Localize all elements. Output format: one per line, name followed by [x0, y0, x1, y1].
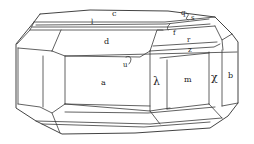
edge-right-bevel: [150, 30, 163, 51]
edge-bot-right-bevel: [209, 104, 222, 118]
face-label-c: c: [112, 10, 116, 18]
edge-left-mid: [18, 48, 52, 51]
face-label-b: b: [228, 72, 233, 80]
face-label-r: r: [187, 37, 190, 44]
face-label-a: a: [101, 79, 106, 87]
crystal-outline: [16, 10, 238, 134]
edge-z-bottom: [150, 44, 220, 51]
face-label-z: z: [188, 47, 192, 54]
crystal-diagram: c l d q s f r z u a λ m χ b: [0, 0, 254, 144]
edge-bot-left: [18, 104, 65, 113]
face-label-l: l: [91, 19, 93, 26]
edge-right-upper: [215, 26, 232, 40]
edge-z-top: [153, 42, 217, 46]
q-mark: [186, 13, 188, 20]
face-label-chi: χ: [211, 72, 218, 83]
face-label-f: f: [173, 30, 176, 37]
edge-chi-top: [222, 40, 223, 50]
face-label-s: s: [191, 15, 195, 22]
face-label-lambda: λ: [153, 76, 160, 87]
face-label-u: u: [123, 62, 128, 69]
edge-bot-4: [42, 122, 210, 127]
edge-bot-bevel-right: [150, 111, 160, 124]
face-label-m: m: [184, 76, 192, 84]
face-label-d: d: [104, 38, 109, 46]
edge-left-bevel: [52, 30, 61, 51]
face-label-q: q: [181, 10, 185, 17]
